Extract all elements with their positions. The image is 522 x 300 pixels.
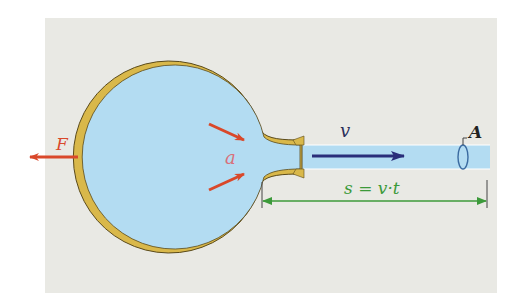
diagram-svg: F a v A s = v·t [0,0,522,300]
diagram-canvas: F a v A s = v·t [0,0,522,300]
force-label: F [55,134,69,154]
velocity-label: v [340,120,350,141]
distance-formula-label: s = v·t [344,178,400,198]
acceleration-label: a [225,147,236,168]
area-label: A [467,122,482,142]
